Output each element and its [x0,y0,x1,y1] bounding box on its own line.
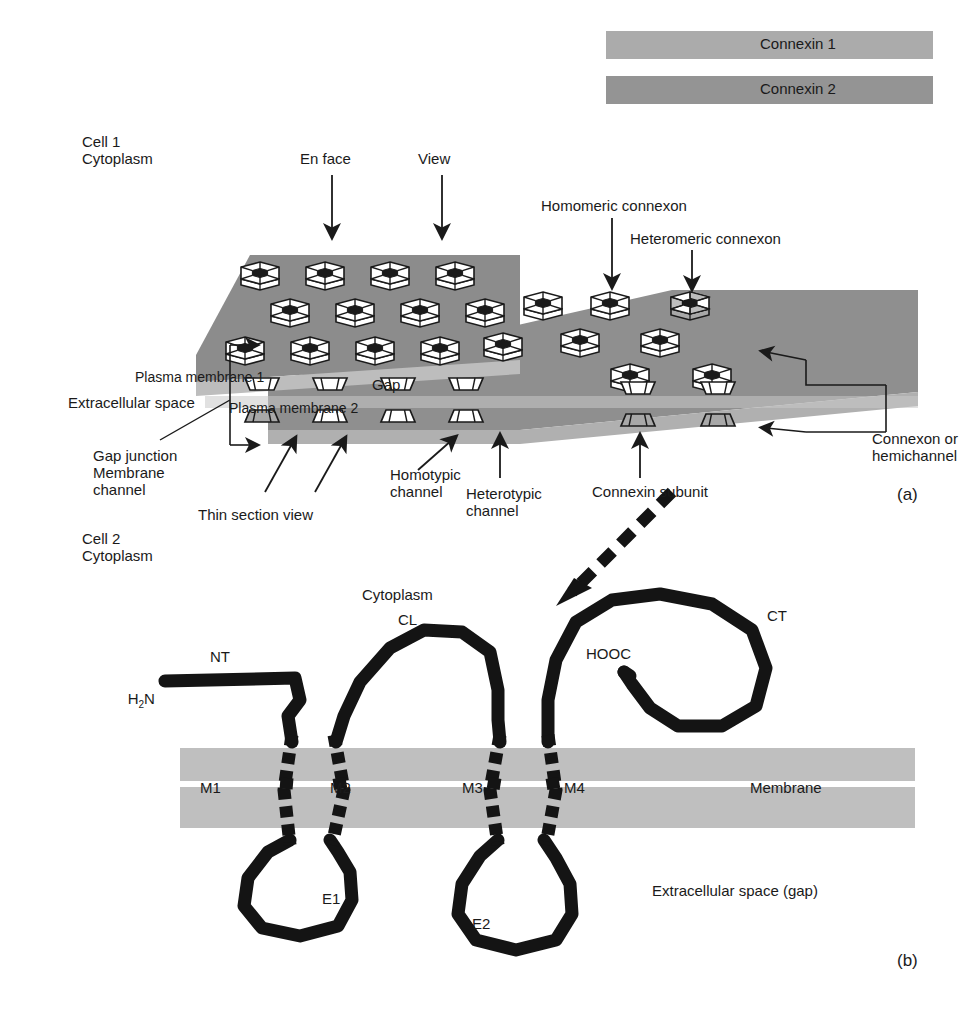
label-homotypic-channel: Homotypic channel [390,466,461,500]
label-h2n: H2N [111,673,155,730]
panel-a-artwork [160,175,918,606]
label-gap: Gap [372,376,400,393]
label-en-face: En face [300,150,351,167]
label-membrane: Membrane [750,779,822,796]
label-e1-loop: E1 [322,890,340,907]
label-view: View [418,150,450,167]
label-hooc: HOOC [586,645,631,662]
label-cell-1-cytoplasm: Cell 1 Cytoplasm [82,133,153,167]
label-tm-m2: M2 [330,779,351,796]
label-heterotypic-channel: Heterotypic channel [466,485,542,519]
label-plasma-membrane-1: Plasma membrane 1 [135,369,264,386]
label-cytoplasm: Cytoplasm [362,586,433,603]
label-e2-loop: E2 [472,915,490,932]
label-cell-2-cytoplasm: Cell 2 Cytoplasm [82,530,153,564]
h2n-h: H [128,690,139,707]
label-connexin-subunit: Connexin subunit [592,483,708,500]
label-nt-terminus: NT [210,648,230,665]
thin-section-arrow-1 [265,442,293,492]
label-tm-m4: M4 [564,779,585,796]
label-thin-section-view: Thin section view [198,506,313,523]
panel-label-a: (a) [897,485,918,505]
label-gap-junction-membrane-channel: Gap junction Membrane channel [93,447,177,498]
label-tm-m1: M1 [200,779,221,796]
legend-label-connexin-2: Connexin 2 [760,80,836,97]
h2n-n: N [144,690,155,707]
label-connexon-or-hemichannel: Connexon or hemichannel [872,430,958,464]
label-heteromeric-connexon: Heteromeric connexon [630,230,781,247]
heteromeric-connexon [671,292,709,320]
label-cl-loop: CL [398,611,417,628]
thin-section-arrow-2 [315,442,343,492]
figure-gap-junction: Connexin 1 Connexin 2 Cell 1 Cytoplasm E… [0,0,979,1016]
panel-label-b: (b) [897,951,918,971]
label-extracellular-space: Extracellular space [68,394,195,411]
label-tm-m3: M3 [462,779,483,796]
label-ct-terminus: CT [767,607,787,624]
label-homomeric-connexon: Homomeric connexon [541,197,687,214]
label-extracellular-space-gap: Extracellular space (gap) [652,882,818,899]
label-plasma-membrane-2: Plasma membrane 2 [229,400,358,417]
legend-label-connexin-1: Connexin 1 [760,35,836,52]
